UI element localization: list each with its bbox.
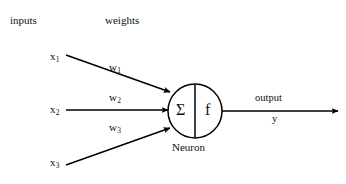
weight-label-w1: w1 [109, 62, 121, 73]
summation-symbol: Σ [176, 102, 185, 118]
weight-label-w3-base: w [109, 121, 117, 133]
input-label-x3-base: x [50, 156, 56, 168]
input-label-x3: x3 [50, 157, 59, 168]
input-label-x1-subscript: 1 [56, 55, 60, 64]
weight-label-w2-subscript: 2 [117, 96, 121, 105]
weight-label-w3-subscript: 3 [117, 126, 121, 135]
weights-column-header: weights [105, 15, 139, 26]
input-label-x3-subscript: 3 [56, 161, 60, 170]
weight-label-w3: w3 [109, 122, 121, 133]
input-label-x2: x2 [50, 104, 59, 115]
output-variable-label: y [272, 114, 277, 125]
neuron-caption: Neuron [172, 142, 205, 153]
input-label-x1-base: x [50, 50, 56, 62]
weight-label-w1-base: w [109, 61, 117, 73]
neuron-diagram: inputs weights x1 x2 x3 w1 w2 w3 Σ f Neu… [0, 0, 346, 184]
weight-label-w2-base: w [109, 91, 117, 103]
weight-label-w2: w2 [109, 92, 121, 103]
activation-function-symbol: f [205, 102, 210, 118]
inputs-column-header: inputs [10, 15, 37, 26]
input-label-x1: x1 [50, 51, 59, 62]
output-label: output [255, 93, 282, 104]
weight-label-w1-subscript: 1 [117, 66, 121, 75]
input-label-x2-subscript: 2 [56, 108, 60, 117]
input-label-x2-base: x [50, 103, 56, 115]
